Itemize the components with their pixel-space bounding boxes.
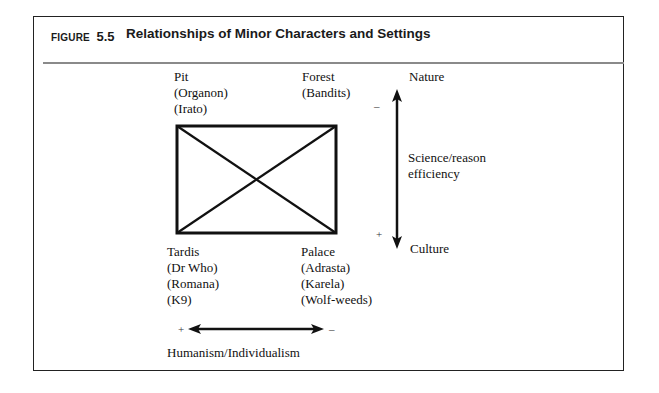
setting-palace: Palace <box>301 244 372 260</box>
character-label: (Dr Who) <box>167 260 219 276</box>
character-label: (Organon) <box>174 85 228 101</box>
horizontal-arrow <box>188 324 324 334</box>
character-label: (Wolf-weeds) <box>301 292 372 308</box>
minus-sign: – <box>374 101 380 112</box>
character-label: (Bandits) <box>302 85 350 101</box>
setting-tardis: Tardis <box>167 244 219 260</box>
corner-bottom-right: Palace (Adrasta) (Karela) (Wolf-weeds) <box>301 244 372 308</box>
vertical-arrow <box>392 89 402 249</box>
character-label: (Adrasta) <box>301 260 372 276</box>
corner-top-left: Pit (Organon) (Irato) <box>174 69 228 117</box>
character-label: (Romana) <box>167 276 219 292</box>
axis-middle-line1: Science/reason <box>408 150 486 166</box>
axis-middle-line2: efficiency <box>408 166 486 182</box>
setting-forest: Forest <box>302 69 350 85</box>
character-label: (Irato) <box>174 101 228 117</box>
axis-bottom-label: Culture <box>410 241 449 257</box>
square <box>177 126 336 233</box>
character-label: (Karela) <box>301 276 372 292</box>
setting-pit: Pit <box>174 69 228 85</box>
plus-sign: + <box>376 229 382 240</box>
character-label: (K9) <box>167 292 219 308</box>
corner-top-right: Forest (Bandits) <box>302 69 350 101</box>
corner-bottom-left: Tardis (Dr Who) (Romana) (K9) <box>167 244 219 308</box>
horizontal-axis-label: Humanism/Individualism <box>167 345 300 361</box>
plus-sign: + <box>178 324 184 335</box>
minus-sign: – <box>329 324 335 335</box>
axis-middle-label: Science/reason efficiency <box>408 150 486 182</box>
axis-top-label: Nature <box>409 69 444 85</box>
